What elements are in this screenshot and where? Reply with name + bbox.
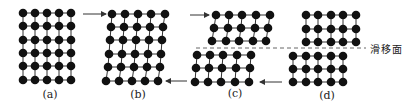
atom-dot bbox=[225, 11, 234, 20]
atom-dot bbox=[157, 50, 166, 59]
atom-dot bbox=[158, 36, 167, 45]
atom-dot bbox=[43, 9, 52, 18]
atom-dot bbox=[314, 38, 323, 47]
atom-dot bbox=[128, 77, 137, 86]
atom-dot bbox=[352, 25, 361, 34]
atom-dot bbox=[67, 9, 76, 18]
atom-dot bbox=[302, 52, 311, 61]
atom-dot bbox=[43, 49, 52, 58]
atom-dot bbox=[121, 10, 130, 19]
atom-dot bbox=[314, 78, 323, 87]
slip-plane-label: 滑移面 bbox=[370, 41, 403, 56]
atom-dot bbox=[31, 49, 40, 58]
atom-dot bbox=[339, 25, 348, 34]
atom-dot bbox=[117, 63, 126, 72]
atom-dot bbox=[327, 65, 336, 74]
atom-dot bbox=[314, 25, 323, 34]
atom-dot bbox=[205, 64, 214, 73]
atom-dot bbox=[115, 77, 124, 86]
atom-dot bbox=[218, 64, 227, 73]
atom-dot bbox=[192, 64, 201, 73]
atom-dot bbox=[302, 38, 311, 47]
atom-dot bbox=[31, 62, 40, 71]
atom-dot bbox=[238, 11, 247, 20]
atom-dot bbox=[19, 9, 28, 18]
atom-dot bbox=[119, 36, 128, 45]
atom-dot bbox=[191, 78, 200, 87]
atom-dot bbox=[19, 49, 28, 58]
atom-dot bbox=[146, 23, 155, 32]
atom-dot bbox=[210, 24, 219, 33]
atom-dot bbox=[314, 11, 323, 20]
atom-dot bbox=[31, 22, 40, 31]
atom-dot bbox=[31, 36, 40, 45]
atom-dot bbox=[147, 10, 156, 19]
atom-dot bbox=[154, 77, 163, 86]
atom-dot bbox=[67, 76, 76, 85]
atom-dot bbox=[232, 64, 241, 73]
atom-dot bbox=[339, 38, 348, 47]
atom-dot bbox=[327, 11, 336, 20]
atom-dot bbox=[156, 63, 165, 72]
atom-dot bbox=[266, 11, 275, 20]
atom-dot bbox=[289, 65, 298, 74]
atom-dot bbox=[193, 51, 202, 60]
atom-dot bbox=[327, 78, 336, 87]
atom-dot bbox=[212, 11, 221, 20]
atom-dot bbox=[302, 25, 311, 34]
atom-dot bbox=[55, 76, 64, 85]
atom-dot bbox=[106, 36, 115, 45]
atom-dot bbox=[118, 50, 127, 59]
atom-dot bbox=[55, 49, 64, 58]
atom-dot bbox=[120, 23, 129, 32]
atom-dot bbox=[289, 52, 298, 61]
atom-dot bbox=[104, 63, 113, 72]
atom-dot bbox=[314, 52, 323, 61]
atom-dot bbox=[131, 50, 140, 59]
atom-dot bbox=[204, 78, 213, 87]
atom-dot bbox=[327, 38, 336, 47]
atom-dot bbox=[67, 22, 76, 31]
atom-dot bbox=[251, 24, 260, 33]
atom-dot bbox=[219, 51, 228, 60]
atom-dot bbox=[43, 62, 52, 71]
atom-dot bbox=[67, 49, 76, 58]
atom-dot bbox=[246, 64, 255, 73]
atom-dot bbox=[249, 37, 258, 46]
slip-deformation-diagram bbox=[0, 0, 417, 110]
atom-dot bbox=[352, 38, 361, 47]
panel-label-a: (a) bbox=[42, 88, 57, 101]
atom-dot bbox=[314, 65, 323, 74]
atom-dot bbox=[352, 11, 361, 20]
atom-dot bbox=[302, 78, 311, 87]
atom-dot bbox=[67, 36, 76, 45]
atom-dot bbox=[43, 76, 52, 85]
atom-dot bbox=[339, 11, 348, 20]
panel-label-c: (c) bbox=[228, 87, 243, 100]
atom-dot bbox=[102, 77, 111, 86]
atom-dot bbox=[55, 9, 64, 18]
atom-dot bbox=[31, 9, 40, 18]
atom-dot bbox=[159, 23, 168, 32]
panel-label-d: (d) bbox=[319, 89, 335, 102]
atom-dot bbox=[43, 36, 52, 45]
atom-dot bbox=[222, 37, 231, 46]
atom-dot bbox=[302, 65, 311, 74]
atom-dot bbox=[19, 62, 28, 71]
atom-dot bbox=[206, 51, 215, 60]
atom-dot bbox=[264, 24, 273, 33]
atom-dot bbox=[145, 36, 154, 45]
atom-dot bbox=[55, 22, 64, 31]
atom-dot bbox=[107, 23, 116, 32]
atom-dot bbox=[289, 78, 298, 87]
atom-dot bbox=[245, 78, 254, 87]
atom-dot bbox=[233, 51, 242, 60]
atom-dot bbox=[237, 24, 246, 33]
atom-dot bbox=[108, 10, 117, 19]
atom-dot bbox=[224, 24, 233, 33]
atom-dot bbox=[252, 11, 261, 20]
atom-dot bbox=[144, 50, 153, 59]
atom-dot bbox=[19, 36, 28, 45]
atom-dot bbox=[141, 77, 150, 86]
atom-dot bbox=[339, 78, 348, 87]
